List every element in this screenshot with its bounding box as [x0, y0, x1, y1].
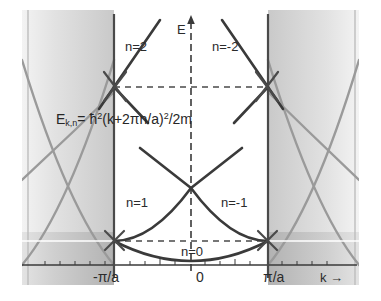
k-axis-label: k →: [320, 271, 343, 284]
band-structure-figure: Ek,n= ħ2(k+2πn/a)2/2m n=2 n=-2 n=1 n=-1 …: [0, 0, 381, 301]
formula-E: E: [56, 111, 65, 127]
band-label-n2: n=2: [125, 40, 147, 53]
E-axis-label: E: [177, 23, 186, 36]
band-curve-n1-upper-left: [140, 148, 191, 188]
x-tick-label-minus-pi-over-a: -π/a: [93, 270, 119, 284]
band-curve-nm1-upper-right: [191, 148, 242, 188]
formula-bracket: (k+2πn/a): [102, 111, 163, 127]
x-tick-label-pi-over-a: π/a: [263, 270, 284, 284]
formula-equals-hbar: = ħ: [77, 111, 97, 127]
energy-formula: Ek,n= ħ2(k+2πn/a)2/2m: [56, 112, 192, 128]
band-label-n1: n=1: [126, 196, 148, 209]
formula-tail: /2m: [169, 111, 192, 127]
formula-subscript: k,n: [65, 118, 77, 128]
band-label-n0: n=0: [181, 245, 203, 258]
band-label-n-minus-1: n=-1: [221, 196, 247, 209]
E-axis: [187, 15, 195, 272]
band-label-n-minus-2: n=-2: [212, 40, 238, 53]
x-tick-label-zero: 0: [196, 270, 204, 284]
